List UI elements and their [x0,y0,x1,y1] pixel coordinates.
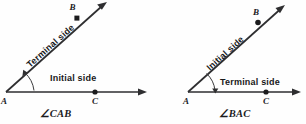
right-point-c-marker [263,89,268,94]
left-point-b-marker [74,16,79,21]
left-point-c-label: C [92,96,99,106]
left-point-c-marker [92,89,97,94]
right-terminal-side-label: Terminal side [220,77,280,87]
left-angle-name: ∠CAB [40,108,71,119]
right-diagram: B C A Initial side Terminal side ∠BAC [182,5,301,119]
right-point-c-label: C [263,96,270,106]
left-initial-side-label: Initial side [50,73,96,83]
angle-diagram-figure: B C A Terminal side Initial side ∠CAB [0,0,306,124]
left-terminal-side-label: Terminal side [25,22,77,69]
left-diagram: B C A Terminal side Initial side ∠CAB [0,2,147,119]
right-angle-name: ∠BAC [219,108,251,119]
right-rotation-arc [207,74,216,91]
right-point-b-marker [255,20,261,26]
left-initial-side-arrowhead [138,89,147,96]
right-initial-side-label: Initial side [205,34,246,72]
right-point-b-label: B [252,7,259,17]
right-terminal-side-arrowhead [292,89,301,96]
right-vertex-a-label: A [182,96,189,106]
left-point-b-label: B [68,2,75,12]
diagram-canvas: B C A Terminal side Initial side ∠CAB [0,0,306,124]
left-vertex-a-label: A [0,96,7,106]
